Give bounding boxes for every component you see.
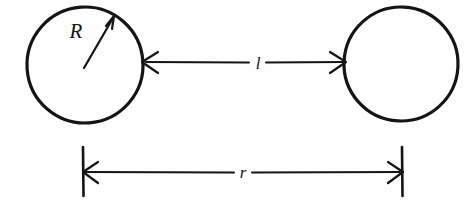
radius-label: R: [69, 19, 83, 43]
center-distance-shaft-right: [252, 172, 400, 173]
radius-arrow-shaft: [84, 18, 113, 68]
gap-arrow-shaft-left: [146, 62, 249, 63]
gap-dimension: [142, 52, 346, 73]
figure-container: R l r: [0, 0, 473, 211]
gap-label: l: [256, 54, 261, 73]
right-circle: [341, 4, 461, 124]
radius-arrow: [84, 16, 114, 68]
geometry-diagram: R l r: [0, 0, 473, 211]
gap-arrow-shaft-right: [266, 62, 344, 63]
center-distance-shaft-left: [86, 172, 234, 173]
center-distance-label: r: [240, 163, 247, 182]
